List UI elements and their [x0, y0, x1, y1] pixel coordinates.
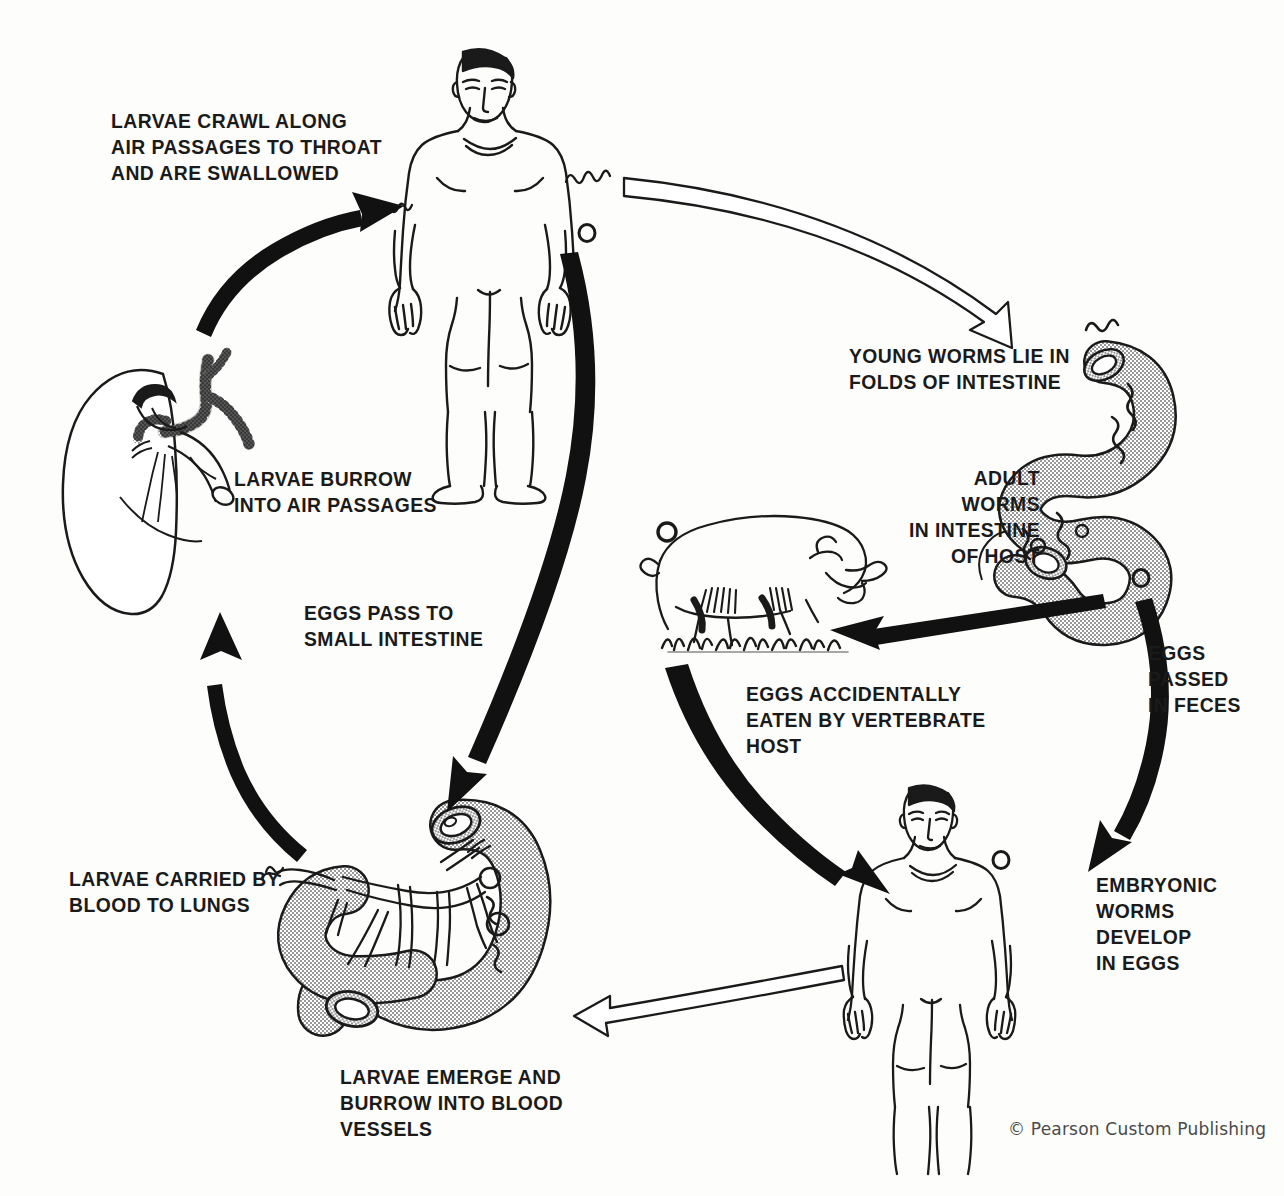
label-eggs-passed: EGGS PASSED IN FECES — [1148, 640, 1241, 718]
label-larvae-crawl: LARVAE CRAWL ALONG AIR PASSAGES TO THROA… — [111, 108, 382, 186]
copyright-credit: © Pearson Custom Publishing — [1008, 1119, 1266, 1139]
label-larvae-burrow: LARVAE BURROW INTO AIR PASSAGES — [234, 466, 437, 518]
label-larvae-blood: LARVAE CARRIED BY BLOOD TO LUNGS — [69, 866, 280, 918]
label-embryonic-worms: EMBRYONIC WORMS DEVELOP IN EGGS — [1096, 872, 1217, 976]
life-cycle-diagram: LARVAE CRAWL ALONG AIR PASSAGES TO THROA… — [0, 0, 1284, 1196]
label-adult-worms: ADULT WORMS IN INTESTINE OF HOST — [896, 465, 1040, 569]
label-eggs-pass: EGGS PASS TO SMALL INTESTINE — [304, 600, 483, 652]
label-eggs-eaten: EGGS ACCIDENTALLY EATEN BY VERTEBRATE HO… — [746, 681, 986, 759]
label-young-worms: YOUNG WORMS LIE IN FOLDS OF INTESTINE — [849, 343, 1070, 395]
label-larvae-emerge: LARVAE EMERGE AND BURROW INTO BLOOD VESS… — [340, 1064, 563, 1142]
